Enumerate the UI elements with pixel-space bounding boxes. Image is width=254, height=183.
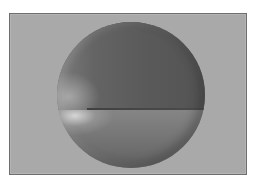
image-frame: Gray 3D-shaded sphere with a horizontal … — [9, 13, 247, 175]
sphere-rim-shading — [57, 22, 205, 168]
sphere — [57, 22, 205, 168]
